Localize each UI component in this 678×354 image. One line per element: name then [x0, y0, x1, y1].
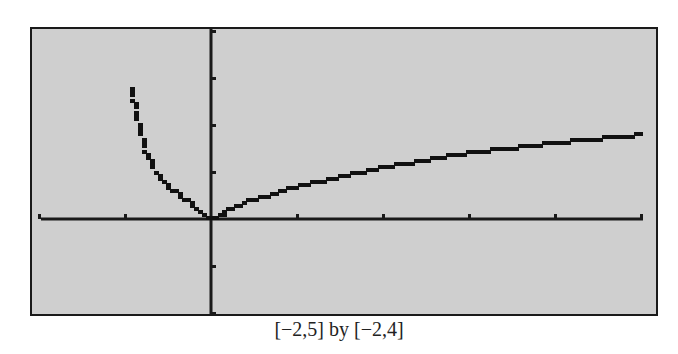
x-tick: [554, 214, 557, 219]
y-tick: [211, 124, 216, 127]
y-tick: [211, 312, 216, 314]
x-tick: [38, 214, 41, 219]
plot-area: [32, 29, 656, 314]
y-tick: [211, 30, 216, 33]
function-curve: [210, 134, 643, 218]
x-tick: [124, 214, 127, 219]
window-caption: [−2,5] by [−2,4]: [0, 318, 678, 341]
x-tick: [296, 214, 299, 219]
x-tick: [382, 214, 385, 219]
function-curve: [130, 89, 215, 218]
y-tick: [211, 265, 216, 268]
y-tick: [211, 77, 216, 80]
x-tick: [640, 214, 643, 219]
calculator-screen: [30, 27, 658, 316]
y-tick: [211, 171, 216, 174]
x-tick: [468, 214, 471, 219]
